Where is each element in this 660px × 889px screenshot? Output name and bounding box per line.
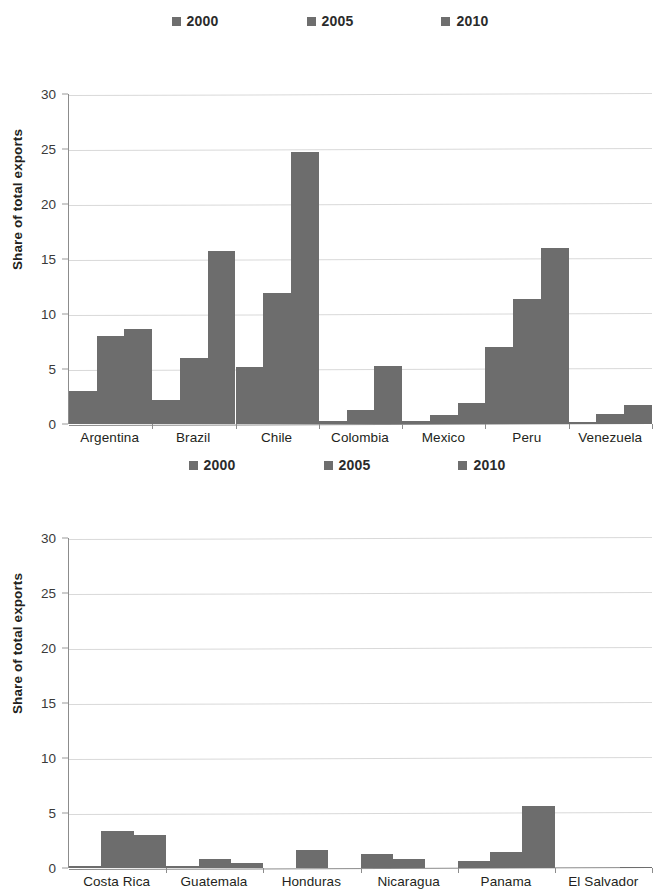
legend-label: 2000 xyxy=(204,457,236,473)
x-axis-tick-mark xyxy=(152,424,153,429)
bar xyxy=(393,859,425,868)
bar-group xyxy=(319,94,402,424)
x-axis-labels: ArgentinaBrazilChileColombiaMexicoPeruVe… xyxy=(68,430,652,445)
legend-swatch-icon xyxy=(324,461,333,470)
x-axis-tick-mark xyxy=(319,424,320,429)
y-axis-tick-label: 10 xyxy=(22,307,56,322)
bar xyxy=(263,293,291,424)
x-axis-tick-mark xyxy=(166,868,167,873)
bar xyxy=(569,422,597,424)
bar xyxy=(513,299,541,424)
bar-group xyxy=(555,538,652,868)
bar-group xyxy=(69,538,166,868)
bar xyxy=(97,336,125,424)
x-axis-tick-mark xyxy=(652,868,653,873)
legend-swatch-icon xyxy=(458,461,467,470)
y-axis-tick-label: 15 xyxy=(22,252,56,267)
x-axis-label: Peru xyxy=(485,430,568,445)
y-axis-tick-label: 15 xyxy=(22,696,56,711)
y-axis-ticks: 051015202530 xyxy=(28,94,62,424)
y-axis-tick-label: 0 xyxy=(22,417,56,432)
legend-swatch-icon xyxy=(172,17,181,26)
bar xyxy=(152,400,180,424)
legend-central-america: 2000 2005 2010 xyxy=(0,444,660,478)
y-axis-tick-label: 0 xyxy=(22,861,56,876)
legend-label: 2010 xyxy=(473,457,505,473)
legend-item-2005: 2005 xyxy=(324,457,371,473)
bar xyxy=(296,850,328,868)
legend-label: 2005 xyxy=(322,13,354,29)
x-axis-tick-mark xyxy=(236,424,237,429)
bar xyxy=(166,866,198,868)
y-axis-ticks: 051015202530 xyxy=(28,538,62,868)
legend-swatch-icon xyxy=(441,17,450,26)
bar-group xyxy=(166,538,263,868)
y-axis-tick-label: 25 xyxy=(22,142,56,157)
legend-item-2000: 2000 xyxy=(172,13,219,29)
x-axis-label: Honduras xyxy=(263,874,360,889)
x-axis-label: Guatemala xyxy=(165,874,262,889)
bar-group xyxy=(485,94,568,424)
plot-area xyxy=(68,94,652,424)
bar xyxy=(430,415,458,424)
bar xyxy=(69,866,101,868)
legend-item-2000: 2000 xyxy=(189,457,236,473)
x-axis-label: Venezuela xyxy=(569,430,652,445)
bar-groups xyxy=(69,94,652,424)
x-axis-label: Chile xyxy=(235,430,318,445)
plot-area-wrapper: Share of total exports 051015202530 Arge… xyxy=(0,34,660,406)
y-axis-tick-label: 10 xyxy=(22,751,56,766)
bar-groups xyxy=(69,538,652,868)
bar xyxy=(208,251,236,424)
x-axis-label: Argentina xyxy=(68,430,151,445)
legend-swatch-icon xyxy=(307,17,316,26)
x-axis-label: Panama xyxy=(457,874,554,889)
bar-group xyxy=(263,538,360,868)
chart-central-america: 2000 2005 2010 Share of total exports 05… xyxy=(0,444,660,889)
bar-group xyxy=(361,538,458,868)
x-axis-label: Costa Rica xyxy=(68,874,165,889)
y-axis-tick-label: 20 xyxy=(22,197,56,212)
y-axis-tick-label: 5 xyxy=(22,362,56,377)
bar xyxy=(134,835,166,868)
x-axis-tick-mark xyxy=(263,868,264,873)
legend-label: 2010 xyxy=(456,13,488,29)
bar xyxy=(620,867,652,868)
legend-swatch-icon xyxy=(189,461,198,470)
bar-group xyxy=(69,94,152,424)
bar-group xyxy=(152,94,235,424)
legend-south-america: 2000 2005 2010 xyxy=(0,0,660,34)
bar xyxy=(522,806,554,868)
bar xyxy=(101,831,133,868)
bar-group xyxy=(236,94,319,424)
bar xyxy=(124,329,152,424)
bar xyxy=(180,358,208,424)
legend-label: 2000 xyxy=(187,13,219,29)
bar xyxy=(541,248,569,424)
bar xyxy=(458,403,486,424)
x-axis-tick-mark xyxy=(652,424,653,429)
x-axis-label: Brazil xyxy=(151,430,234,445)
plot-area xyxy=(68,538,652,868)
bar xyxy=(69,391,97,424)
bar xyxy=(291,152,319,424)
legend-item-2005: 2005 xyxy=(307,13,354,29)
x-axis-tick-mark xyxy=(361,868,362,873)
bar-group xyxy=(402,94,485,424)
bar xyxy=(347,410,375,424)
plot-area-wrapper: Share of total exports 051015202530 Cost… xyxy=(0,478,660,850)
x-axis-tick-mark xyxy=(458,868,459,873)
bar xyxy=(596,414,624,424)
x-axis-tick-mark xyxy=(402,424,403,429)
bar xyxy=(402,421,430,424)
y-axis-tick-label: 30 xyxy=(22,531,56,546)
x-axis-tick-mark xyxy=(555,868,556,873)
bar-group xyxy=(458,538,555,868)
bar xyxy=(236,367,264,424)
x-axis-label: Mexico xyxy=(402,430,485,445)
y-axis-tick-label: 5 xyxy=(22,806,56,821)
bar xyxy=(199,859,231,868)
x-axis-label: Colombia xyxy=(318,430,401,445)
x-axis-label: El Salvador xyxy=(555,874,652,889)
bar xyxy=(458,861,490,868)
